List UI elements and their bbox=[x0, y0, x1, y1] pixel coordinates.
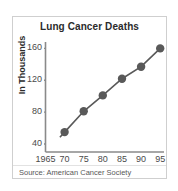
chart-figure: Lung Cancer Deaths In Thousands 40801201… bbox=[0, 0, 178, 191]
x-tick-label: 90 bbox=[136, 154, 146, 164]
x-tick-label: 85 bbox=[117, 154, 127, 164]
source-note: Source: American Cancer Society bbox=[19, 168, 131, 177]
x-tick-label: 1965 bbox=[35, 154, 55, 164]
y-tick-label: 120 bbox=[18, 74, 42, 84]
source-divider bbox=[13, 165, 166, 166]
y-tick-label: 40 bbox=[18, 138, 42, 148]
data-point bbox=[137, 63, 145, 71]
y-tick-label: 80 bbox=[18, 106, 42, 116]
plot-area bbox=[44, 40, 166, 154]
data-point bbox=[80, 107, 88, 115]
x-tick-label: 80 bbox=[98, 154, 108, 164]
data-point bbox=[60, 128, 68, 136]
data-point bbox=[156, 44, 164, 52]
data-points bbox=[60, 44, 164, 136]
plot-svg bbox=[44, 40, 166, 156]
x-tick-label: 75 bbox=[79, 154, 89, 164]
data-point bbox=[118, 75, 126, 83]
data-line bbox=[60, 48, 160, 137]
y-tick-label: 160 bbox=[18, 42, 42, 52]
data-point bbox=[99, 91, 107, 99]
x-tick-label: 95 bbox=[155, 154, 165, 164]
x-tick-label: 70 bbox=[60, 154, 70, 164]
